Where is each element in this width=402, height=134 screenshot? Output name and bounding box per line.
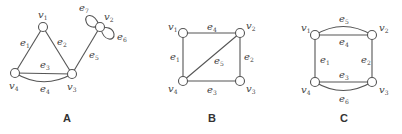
graph-c-label-v1: v1: [301, 22, 310, 34]
graph-c-label-v4: v4: [301, 84, 311, 96]
graph-b-label-e2: e2: [244, 51, 254, 63]
graph-a-label-e1: e1: [20, 37, 30, 49]
graph-diagrams: v1 v2 v3 v4 e1 e2 e3 e4 e5 e6 e7 A v1 v2…: [0, 0, 402, 134]
graph-a-label-v4: v4: [9, 80, 19, 92]
graph-a-label-e7: e7: [79, 2, 89, 14]
graph-b-vertex-v1: [179, 29, 188, 38]
graph-a-label-v3: v3: [67, 81, 77, 93]
graph-c-vertex-v1: [311, 31, 320, 40]
graph-a-label-e4: e4: [40, 83, 50, 95]
graph-c-label-e5: e5: [339, 13, 349, 25]
graph-c-label-e1: e1: [320, 54, 330, 66]
graph-c-label-v2: v2: [379, 22, 389, 34]
graph-b-label-v1: v1: [168, 21, 177, 33]
graph-b-vertex-v3: [236, 77, 245, 86]
graph-a-vertex-v1: [39, 23, 48, 32]
graph-c-caption: C: [340, 112, 348, 124]
graph-b-edge-e5: [183, 33, 240, 81]
graph-a-label-e6: e6: [117, 31, 127, 43]
graph-a-vertex-v2: [96, 23, 105, 32]
graph-a-edge-e3: [15, 73, 72, 74]
graph-c-label-e4: e4: [339, 36, 349, 48]
graph-c-edge-e6: [315, 82, 372, 91]
graph-b-label-e1: e1: [170, 51, 180, 63]
graph-a-vertex-v4: [11, 69, 20, 78]
graph-c: v1 v2 v3 v4 e1 e2 e3 e4 e5 e6 C: [301, 13, 389, 124]
graph-b-label-v2: v2: [246, 20, 256, 32]
graph-a-label-v1: v1: [38, 9, 47, 21]
graph-b: v1 v2 v3 v4 e1 e2 e3 e4 e5 B: [168, 20, 256, 124]
graph-a-label-v2: v2: [104, 11, 114, 23]
graph-a: v1 v2 v3 v4 e1 e2 e3 e4 e5 e6 e7 A: [9, 2, 127, 124]
graph-a-label-e3: e3: [40, 59, 50, 71]
graph-b-vertex-v4: [179, 77, 188, 86]
graph-a-edge-e1: [15, 27, 43, 73]
graph-b-label-v3: v3: [246, 83, 256, 95]
graph-a-caption: A: [63, 112, 71, 124]
graph-c-label-e3: e3: [339, 69, 349, 81]
graph-c-label-e6: e6: [339, 93, 349, 105]
graph-c-label-v3: v3: [379, 84, 389, 96]
graph-a-label-e2: e2: [57, 36, 67, 48]
graph-a-vertex-v3: [68, 70, 77, 79]
graph-c-vertex-v4: [311, 78, 320, 87]
graph-b-label-v4: v4: [168, 83, 178, 95]
graph-b-vertex-v2: [236, 29, 245, 38]
graph-c-edge-e5: [315, 27, 372, 36]
graph-b-label-e3: e3: [207, 84, 217, 96]
graph-c-vertex-v3: [368, 78, 377, 87]
graph-c-label-e2: e2: [361, 54, 371, 66]
graph-b-label-e5: e5: [214, 55, 224, 67]
graph-b-caption: B: [208, 112, 216, 124]
graph-c-vertex-v2: [368, 31, 377, 40]
graph-b-label-e4: e4: [207, 21, 217, 33]
graph-a-edge-e5: [72, 27, 100, 74]
graph-a-label-e5: e5: [89, 49, 99, 61]
